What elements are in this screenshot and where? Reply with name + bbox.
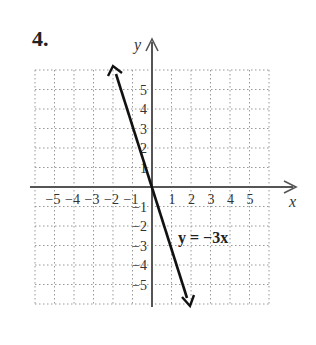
y-tick-label: −4	[132, 258, 147, 273]
x-tick-label: 4	[227, 192, 234, 207]
x-tick-label: −5	[46, 192, 61, 207]
x-tick-label: 1	[169, 192, 176, 207]
equation-label: y = −3x	[178, 229, 228, 247]
y-tick-label: 3	[140, 122, 147, 137]
x-tick-labels: −5−4−3−2−112345	[46, 192, 254, 207]
coordinate-plane: x y −5−4−3−2−112345 54321−1−2−3−4−5 y = …	[0, 0, 316, 345]
y-tick-label: −1	[132, 200, 147, 215]
x-tick-label: −2	[104, 192, 119, 207]
x-axis-label: x	[288, 193, 296, 210]
x-tick-label: −4	[65, 192, 80, 207]
y-tick-label: −2	[132, 219, 147, 234]
x-tick-label: 3	[208, 192, 215, 207]
x-tick-label: −3	[85, 192, 100, 207]
y-tick-label: 5	[140, 83, 147, 98]
x-tick-label: 2	[188, 192, 195, 207]
y-tick-label: 4	[140, 102, 147, 117]
y-tick-label: −3	[132, 239, 147, 254]
x-tick-label: 5	[247, 192, 254, 207]
y-tick-label: −5	[132, 278, 147, 293]
y-axis-label: y	[132, 36, 142, 54]
